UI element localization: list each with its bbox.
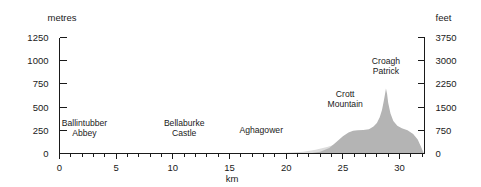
y-axis-right-tick-label: 2250 <box>436 78 457 89</box>
y-axis-right-tick-label: 0 <box>436 148 441 159</box>
y-axis-right-tick-label: 3000 <box>436 55 457 66</box>
y-axis-left-tick-label: 1250 <box>27 32 48 43</box>
place-label: Croagh <box>372 56 400 66</box>
x-axis-unit-label: km <box>226 173 239 184</box>
chart-canvas: 025050075010001250metres0750150022503000… <box>0 0 481 187</box>
x-axis-tick-label: 15 <box>224 162 235 173</box>
y-axis-right-unit-label: feet <box>436 12 452 23</box>
place-label: Castle <box>172 128 197 138</box>
x-axis-tick-label: 10 <box>168 162 179 173</box>
terrain-upper-area <box>309 89 423 154</box>
x-axis-tick-label: 20 <box>281 162 292 173</box>
x-axis-tick-label: 5 <box>114 162 119 173</box>
y-axis-left-tick-label: 750 <box>33 78 49 89</box>
place-label: Abbey <box>72 128 97 138</box>
y-axis-left-tick-label: 0 <box>43 148 48 159</box>
x-axis-tick-label: 0 <box>57 162 62 173</box>
place-label: Bellaburke <box>164 118 205 128</box>
y-axis-left-tick-label: 250 <box>33 125 49 136</box>
y-axis-right-tick-label: 1500 <box>436 102 457 113</box>
x-axis-tick-label: 25 <box>338 162 349 173</box>
place-label: Patrick <box>373 66 400 76</box>
place-label: Ballintubber <box>62 118 108 128</box>
y-axis-left-tick-label: 1000 <box>27 55 48 66</box>
place-label: Aghagower <box>240 125 284 135</box>
y-axis-left-unit-label: metres <box>48 12 77 23</box>
x-axis-tick-label: 30 <box>394 162 405 173</box>
place-label: Crott <box>336 89 355 99</box>
elevation-profile-chart: 025050075010001250metres0750150022503000… <box>0 0 481 187</box>
place-label: Mountain <box>327 99 363 109</box>
y-axis-right-tick-label: 3750 <box>436 32 457 43</box>
y-axis-right-tick-label: 750 <box>436 125 452 136</box>
y-axis-left-tick-label: 500 <box>33 102 49 113</box>
